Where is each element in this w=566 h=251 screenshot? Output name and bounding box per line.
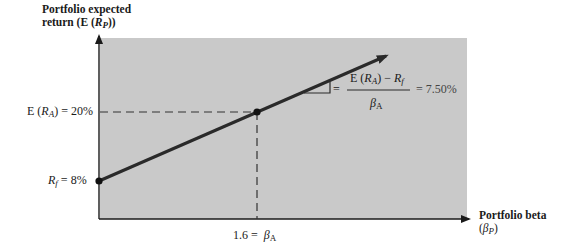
x-axis-title: Portfolio beta (βP) bbox=[479, 209, 546, 235]
slope-result: = 7.50% bbox=[416, 82, 457, 96]
y-axis-title-line2: return (E (RP)) bbox=[42, 16, 131, 29]
y-tick-expected-return: E (RA) = 20% bbox=[27, 104, 93, 118]
y-axis-title: Portfolio expected return (E (RP)) bbox=[42, 3, 131, 29]
slope-numerator: E (RA) − Rf bbox=[350, 71, 404, 85]
plot-background bbox=[100, 38, 467, 219]
risk-free-point bbox=[95, 177, 102, 184]
slope-equals-sign: = bbox=[333, 82, 340, 96]
asset-a-point bbox=[253, 108, 260, 115]
slope-denominator: βA bbox=[370, 96, 382, 110]
x-axis-title-line1: Portfolio beta bbox=[479, 209, 546, 222]
y-tick-risk-free: Rf = 8% bbox=[48, 173, 87, 187]
x-tick-beta-a: 1.6 = βA bbox=[233, 228, 276, 242]
y-axis-title-line1: Portfolio expected bbox=[42, 3, 131, 16]
x-axis-title-line2: (βP) bbox=[479, 222, 546, 235]
